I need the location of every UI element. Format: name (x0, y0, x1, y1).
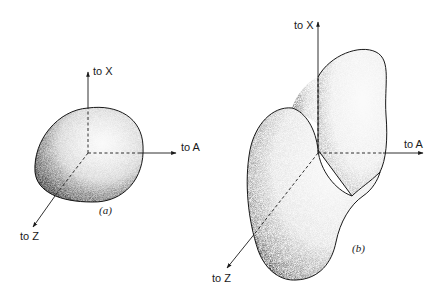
z-axis-arrow (227, 237, 252, 268)
z-axis-label: to Z (20, 230, 39, 242)
a-axis-label: to A (404, 138, 424, 150)
z-axis-arrow (33, 196, 55, 227)
panel-caption: (a) (99, 204, 112, 217)
z-axis-label: to Z (212, 272, 231, 284)
panel-a: to X to A to Z (a) (20, 65, 201, 242)
x-axis-label: to X (93, 65, 113, 77)
x-axis-label: to X (294, 19, 314, 31)
panel-caption: (b) (352, 242, 365, 255)
panel-b: to X to A to Z (b) (212, 19, 424, 284)
figure-canvas: to X to A to Z (a) to X to A to Z (b) (0, 0, 441, 299)
ellipsoid-surface (35, 107, 143, 202)
a-axis-label: to A (181, 141, 201, 153)
